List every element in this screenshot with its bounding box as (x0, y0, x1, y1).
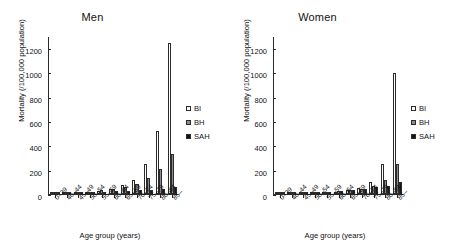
legend-swatch-icon (186, 106, 191, 111)
y-tick-women-400: 400 (254, 137, 273, 155)
bar-group (61, 37, 73, 194)
bar-group (166, 37, 178, 194)
y-tick-men-400: 400 (29, 137, 48, 155)
y-tick-women-200: 200 (254, 162, 273, 180)
y-axis-title-women: Mortality (/100,000 population) (242, 6, 251, 136)
bar-group (143, 37, 155, 194)
bar-group (96, 37, 108, 194)
bar-groups-women (274, 37, 403, 194)
y-tick-women-800: 800 (254, 89, 273, 107)
bar-group (131, 37, 143, 194)
plot-area-men: 0 200 400 600 800 1000 1200 (48, 37, 178, 195)
bar-group (344, 37, 356, 194)
y-tick-women-1200: 1200 (250, 40, 273, 58)
panel-women: Women Mortality (/100,000 population) 0 … (225, 0, 450, 250)
figure-mortality-by-age: Men Mortality (/100,000 population) 0 20… (0, 0, 450, 250)
bar-group (286, 37, 298, 194)
bar-group (380, 37, 392, 194)
panel-title-women: Women (225, 11, 410, 23)
bar-group (356, 37, 368, 194)
legend-item-bh: BH (186, 115, 210, 129)
panel-men: Men Mortality (/100,000 population) 0 20… (0, 0, 225, 250)
plot-area-women: 0 200 400 600 800 1000 1200 (273, 37, 403, 195)
bar-group (119, 37, 131, 194)
x-axis-title-women: Age group (years) (255, 231, 415, 240)
legend-item-sah: SAH (186, 129, 210, 143)
legend-item-bi: BI (186, 101, 210, 115)
y-tick-women-1000: 1000 (250, 64, 273, 82)
bar-group (84, 37, 96, 194)
y-tick-men-1000: 1000 (25, 64, 48, 82)
legend-swatch-icon (411, 106, 416, 111)
legend-swatch-icon (186, 120, 191, 125)
bar-group (368, 37, 380, 194)
legend-label: BH (194, 118, 205, 127)
x-axis-labels-women: 0–3940–4445–4950–5455–5960–6465–6970–747… (274, 196, 404, 230)
bar-group (49, 37, 61, 194)
x-axis-labels-men: 0–3940–4445–4950–5455–5960–6465–6970–747… (49, 196, 179, 230)
y-tick-men-1200: 1200 (25, 40, 48, 58)
legend-swatch-icon (411, 134, 416, 139)
bar-group (309, 37, 321, 194)
bar-group (297, 37, 309, 194)
y-tick-men-600: 600 (29, 113, 48, 131)
bar-group (274, 37, 286, 194)
legend-label: BI (419, 104, 426, 113)
panel-title-men: Men (0, 11, 185, 23)
legend-swatch-icon (186, 134, 191, 139)
legend-item-bh: BH (411, 115, 435, 129)
y-axis-title-men: Mortality (/100,000 population) (17, 6, 26, 136)
bar-group (321, 37, 333, 194)
bar-group (333, 37, 345, 194)
y-tick-men-200: 200 (29, 162, 48, 180)
y-tick-men-800: 800 (29, 89, 48, 107)
legend-women: BIBHSAH (411, 101, 435, 143)
bar-group (391, 37, 403, 194)
legend-swatch-icon (411, 120, 416, 125)
y-tick-men-0: 0 (38, 186, 48, 204)
bar-group (72, 37, 84, 194)
legend-item-sah: SAH (411, 129, 435, 143)
bar-group (108, 37, 120, 194)
legend-label: SAH (419, 132, 435, 141)
bar-group (155, 37, 167, 194)
legend-item-bi: BI (411, 101, 435, 115)
legend-men: BIBHSAH (186, 101, 210, 143)
bar-groups-men (49, 37, 178, 194)
legend-label: SAH (194, 132, 210, 141)
x-axis-title-men: Age group (years) (30, 231, 190, 240)
legend-label: BI (194, 104, 201, 113)
y-tick-women-0: 0 (263, 186, 273, 204)
y-tick-women-600: 600 (254, 113, 273, 131)
legend-label: BH (419, 118, 430, 127)
